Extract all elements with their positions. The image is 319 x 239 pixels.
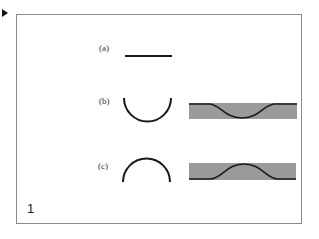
bump-band (189, 163, 296, 180)
concave-down-arc-shape (123, 158, 170, 182)
concave-up-arc-shape (124, 98, 171, 122)
diagram-canvas (0, 0, 319, 239)
dip-band (189, 103, 297, 119)
